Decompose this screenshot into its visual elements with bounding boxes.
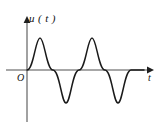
x-axis-label: t bbox=[148, 73, 151, 83]
waveform-figure: u ( t ) O t bbox=[0, 0, 160, 133]
y-axis-label: u ( t ) bbox=[29, 13, 56, 24]
origin-label: O bbox=[17, 73, 24, 83]
plot-canvas bbox=[0, 0, 160, 133]
